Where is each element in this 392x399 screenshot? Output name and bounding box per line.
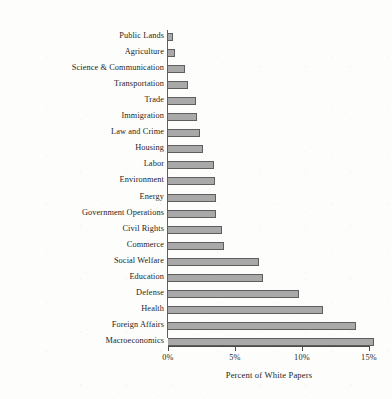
bar-track bbox=[168, 177, 215, 185]
bar bbox=[168, 194, 216, 202]
bar-track bbox=[168, 322, 356, 330]
bar-row: Social Welfare bbox=[40, 255, 392, 271]
plot-area: Public LandsAgricultureScience & Communi… bbox=[40, 16, 392, 348]
category-label: Commerce bbox=[40, 239, 168, 250]
x-axis-tick-label: 10% bbox=[282, 353, 322, 362]
x-axis-line bbox=[168, 346, 370, 347]
bar-row: Immigration bbox=[40, 110, 392, 126]
bar-track bbox=[168, 242, 224, 250]
bar-row: Agriculture bbox=[40, 46, 392, 62]
category-label: Macroeconomics bbox=[40, 335, 168, 346]
bar-track bbox=[168, 210, 216, 218]
bar bbox=[168, 290, 299, 298]
bar-track bbox=[168, 97, 196, 105]
category-label: Health bbox=[40, 303, 168, 314]
bar-row: Labor bbox=[40, 158, 392, 174]
bar-row: Health bbox=[40, 303, 392, 319]
bar bbox=[168, 226, 222, 234]
category-label: Transportation bbox=[40, 78, 168, 89]
bar-track bbox=[168, 49, 175, 57]
bar-track bbox=[168, 129, 200, 137]
x-axis-tick-label: 0% bbox=[148, 353, 188, 362]
bar bbox=[168, 177, 215, 185]
bar bbox=[168, 274, 263, 282]
bar-track bbox=[168, 258, 259, 266]
bar-row: Public Lands bbox=[40, 30, 392, 46]
bar bbox=[168, 33, 173, 41]
bar-track bbox=[168, 290, 299, 298]
bar-track bbox=[168, 145, 203, 153]
bar bbox=[168, 81, 188, 89]
category-label: Science & Communication bbox=[40, 62, 168, 73]
bar-track bbox=[168, 33, 173, 41]
category-label: Education bbox=[40, 271, 168, 282]
bar-row: Energy bbox=[40, 191, 392, 207]
x-axis-tick bbox=[235, 346, 236, 351]
bar-chart-figure: Public LandsAgricultureScience & Communi… bbox=[40, 16, 392, 399]
bar bbox=[168, 306, 323, 314]
bar-row: Foreign Affairs bbox=[40, 319, 392, 335]
x-axis-tick-label: 15% bbox=[349, 353, 389, 362]
category-label: Housing bbox=[40, 142, 168, 153]
category-label: Energy bbox=[40, 191, 168, 202]
bar bbox=[168, 97, 196, 105]
bar-track bbox=[168, 81, 188, 89]
bar-row: Housing bbox=[40, 142, 392, 158]
x-axis-title: Percent of White Papers bbox=[168, 370, 370, 380]
bar bbox=[168, 161, 214, 169]
bar-track bbox=[168, 194, 216, 202]
bar-row: Law and Crime bbox=[40, 126, 392, 142]
bar-track bbox=[168, 338, 374, 346]
bar bbox=[168, 242, 224, 250]
bar-row: Transportation bbox=[40, 78, 392, 94]
bar bbox=[168, 49, 175, 57]
bar-track bbox=[168, 274, 263, 282]
category-label: Environment bbox=[40, 174, 168, 185]
category-label: Agriculture bbox=[40, 46, 168, 57]
bar bbox=[168, 322, 356, 330]
x-axis-tick bbox=[302, 346, 303, 351]
x-axis-tick-label: 5% bbox=[215, 353, 255, 362]
category-label: Government Operations bbox=[40, 207, 168, 218]
bar-row: Government Operations bbox=[40, 207, 392, 223]
bar bbox=[168, 338, 374, 346]
category-label: Public Lands bbox=[40, 30, 168, 41]
category-label: Immigration bbox=[40, 110, 168, 121]
bar-track bbox=[168, 65, 185, 73]
bar-row: Defense bbox=[40, 287, 392, 303]
x-axis-tick bbox=[369, 346, 370, 351]
bar-row: Commerce bbox=[40, 239, 392, 255]
bar-track bbox=[168, 161, 214, 169]
bar bbox=[168, 145, 203, 153]
category-label: Social Welfare bbox=[40, 255, 168, 266]
bar-row: Education bbox=[40, 271, 392, 287]
bar-row: Trade bbox=[40, 94, 392, 110]
category-label: Civil Rights bbox=[40, 223, 168, 234]
bar bbox=[168, 65, 185, 73]
bar-row: Science & Communication bbox=[40, 62, 392, 78]
bar-row: Civil Rights bbox=[40, 223, 392, 239]
bar bbox=[168, 129, 200, 137]
bar-track bbox=[168, 226, 222, 234]
category-label: Labor bbox=[40, 158, 168, 169]
bar-row: Environment bbox=[40, 174, 392, 190]
x-axis-tick bbox=[168, 346, 169, 351]
bar-track bbox=[168, 306, 323, 314]
category-label: Foreign Affairs bbox=[40, 319, 168, 330]
bar bbox=[168, 258, 259, 266]
bar bbox=[168, 210, 216, 218]
bar-track bbox=[168, 113, 197, 121]
category-label: Trade bbox=[40, 94, 168, 105]
category-label: Law and Crime bbox=[40, 126, 168, 137]
category-label: Defense bbox=[40, 287, 168, 298]
x-axis: 0%5%10%15%Percent of White Papers bbox=[40, 346, 392, 399]
bar bbox=[168, 113, 197, 121]
